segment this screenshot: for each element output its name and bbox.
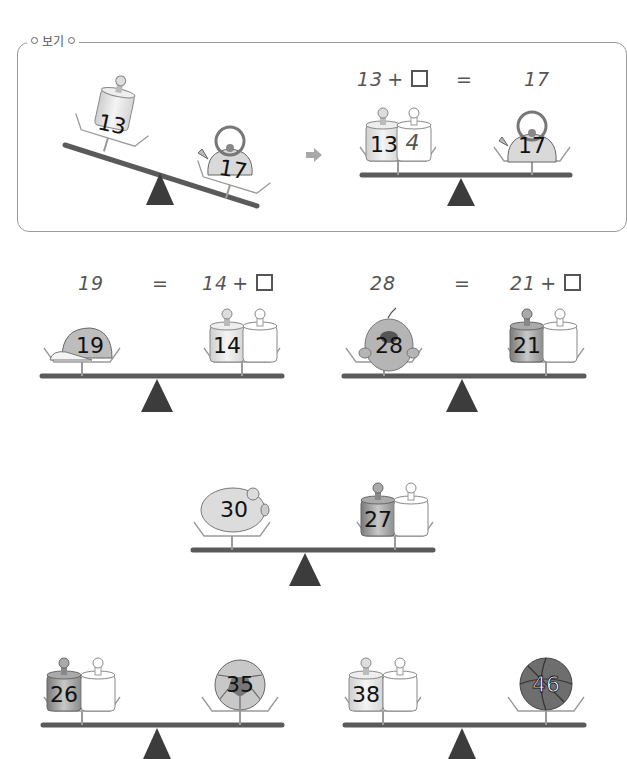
problem-4-weight-number: 26 [44, 682, 84, 707]
problem-1-cap-number: 19 [70, 333, 110, 358]
problem-1-scale [42, 309, 282, 412]
problem-4-ball-number: 35 [220, 672, 260, 697]
plus-sign: + [540, 272, 557, 294]
example-equation-right: 17 [524, 68, 550, 90]
problem-5-ball-number: 46 [526, 672, 566, 697]
blank-box[interactable] [256, 274, 273, 291]
blank-box[interactable] [564, 274, 581, 291]
problem-1-right: 14+ [202, 272, 273, 294]
example-answer-written: 4 [398, 130, 428, 155]
equation-number: 13 [357, 68, 383, 90]
example-equals: = [456, 68, 473, 90]
blank-box [411, 70, 428, 87]
example-kettle-number-2: 17 [512, 133, 552, 158]
problem-1-weight-number: 14 [207, 333, 247, 358]
problem-1-equals: = [152, 272, 169, 294]
problem-2-scale [344, 308, 584, 412]
problem-2-left-value: 28 [370, 272, 396, 294]
problem-3-piggybank-number: 30 [212, 497, 256, 522]
equation-number: 14 [202, 272, 228, 294]
problem-2-equals: = [454, 272, 471, 294]
problem-2-right: 21+ [510, 272, 581, 294]
plus-sign: + [387, 68, 404, 90]
problem-3-weight-number: 27 [358, 507, 398, 532]
problem-5-weight-number: 38 [346, 682, 386, 707]
plus-sign: + [232, 272, 249, 294]
equation-number: 21 [510, 272, 536, 294]
problem-2-weight-number: 21 [507, 333, 547, 358]
example-equation-left: 13+ [357, 68, 428, 90]
arrow-icon [306, 148, 322, 162]
problem-1-left-value: 19 [78, 272, 104, 294]
problem-2-bear-number: 28 [366, 333, 412, 358]
example-tilted-scale [65, 72, 270, 209]
